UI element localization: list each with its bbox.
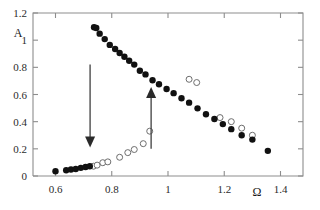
data-point-filled	[87, 163, 93, 169]
data-point-filled	[265, 148, 271, 154]
x-tick-label-0.6: 0.6	[49, 183, 63, 195]
data-point-filled	[102, 36, 108, 42]
data-point-hollow	[131, 147, 137, 153]
x-tick-label-0.8: 0.8	[105, 183, 119, 195]
resonance-scatter-chart: 0.60.811.21.4 00.20.40.60.811.2 A Ω	[0, 0, 320, 210]
data-point-hollow	[194, 80, 200, 86]
y-axis-title: A	[14, 26, 23, 40]
data-point-filled	[203, 111, 209, 117]
data-point-hollow	[105, 159, 111, 165]
y-tick-label-0.2: 0.2	[13, 143, 27, 155]
x-tick-label-1.2: 1.2	[217, 183, 231, 195]
data-point-filled	[194, 105, 200, 111]
data-point-filled	[126, 58, 132, 64]
data-point-filled	[156, 81, 162, 87]
data-point-filled	[163, 86, 169, 92]
data-point-filled	[107, 42, 113, 48]
y-tick-label-0: 0	[22, 170, 28, 182]
data-point-filled	[249, 136, 255, 142]
x-tick-label-1: 1	[165, 183, 171, 195]
data-point-filled	[93, 25, 99, 31]
x-axis-title: Ω	[253, 185, 262, 199]
y-tick-label-0.8: 0.8	[13, 61, 27, 73]
x-tick-label-1.4: 1.4	[274, 183, 288, 195]
data-point-hollow	[186, 76, 192, 82]
data-point-filled	[142, 71, 148, 77]
up-arrow-head	[146, 87, 156, 98]
data-point-filled	[52, 168, 58, 174]
y-tick-label-0.4: 0.4	[13, 116, 27, 128]
data-point-filled	[186, 99, 192, 105]
data-point-filled	[228, 126, 234, 132]
data-point-filled	[149, 77, 155, 83]
data-point-filled	[211, 116, 217, 122]
y-tick-label-0.6: 0.6	[13, 89, 27, 101]
data-series-filled-circles	[52, 24, 271, 174]
plot-frame	[33, 13, 303, 176]
data-point-hollow	[125, 150, 131, 156]
tick-marks	[33, 13, 303, 176]
data-point-filled	[178, 95, 184, 101]
data-point-filled	[220, 121, 226, 127]
data-point-hollow	[217, 115, 223, 121]
data-point-filled	[137, 68, 143, 74]
data-point-hollow	[228, 119, 234, 125]
data-point-hollow	[117, 154, 123, 160]
data-point-filled	[131, 61, 137, 67]
down-arrow-head	[85, 136, 95, 147]
axes-frame	[33, 13, 303, 176]
data-point-hollow	[239, 125, 245, 131]
figure-container: 0.60.811.21.4 00.20.40.60.811.2 A Ω	[0, 0, 320, 210]
data-point-filled	[96, 30, 102, 36]
data-point-filled	[238, 132, 244, 138]
data-point-hollow	[94, 162, 100, 168]
data-point-filled	[170, 90, 176, 96]
y-tick-label-1.2: 1.2	[13, 7, 27, 19]
data-point-hollow	[140, 141, 146, 147]
